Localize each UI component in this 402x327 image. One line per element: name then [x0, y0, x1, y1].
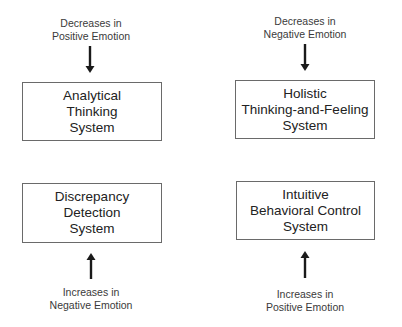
label-line: Decreases in: [235, 15, 375, 28]
discrepancy-detection-system-box: Discrepancy Detection System: [22, 183, 162, 243]
box-text-line: Behavioral Control: [250, 203, 361, 219]
holistic-thinking-and-feeling-system-box: Holistic Thinking-and-Feeling System: [235, 80, 375, 139]
down-arrow-icon: [84, 46, 96, 74]
intuitive-behavioral-control-system-box: Intuitive Behavioral Control System: [236, 181, 375, 240]
box-text-line: Analytical: [63, 88, 121, 104]
box-text-line: System: [283, 219, 328, 235]
label-line: Negative Emotion: [21, 299, 161, 312]
label-line: Decreases in: [21, 17, 161, 30]
label-line: Increases in: [21, 286, 161, 299]
up-arrow-icon: [85, 252, 97, 280]
box-text-line: Detection: [63, 205, 120, 221]
label-line: Positive Emotion: [21, 30, 161, 43]
input-label-decreases-positive-emotion: Decreases in Positive Emotion: [21, 17, 161, 42]
up-arrow-icon: [299, 250, 311, 279]
down-arrow-icon: [299, 44, 311, 72]
analytical-thinking-system-box: Analytical Thinking System: [22, 82, 162, 141]
label-line: Positive Emotion: [235, 301, 375, 314]
box-text-line: System: [69, 120, 114, 136]
input-label-increases-positive-emotion: Increases in Positive Emotion: [235, 288, 375, 313]
box-text-line: Intuitive: [282, 187, 329, 203]
box-text-line: Thinking-and-Feeling: [242, 102, 369, 118]
box-text-line: Discrepancy: [55, 189, 129, 205]
input-label-increases-negative-emotion: Increases in Negative Emotion: [21, 286, 161, 311]
box-text-line: Thinking: [66, 104, 117, 120]
box-text-line: System: [282, 118, 327, 134]
label-line: Negative Emotion: [235, 28, 375, 41]
box-text-line: System: [69, 221, 114, 237]
label-line: Increases in: [235, 288, 375, 301]
box-text-line: Holistic: [283, 86, 327, 102]
input-label-decreases-negative-emotion: Decreases in Negative Emotion: [235, 15, 375, 40]
